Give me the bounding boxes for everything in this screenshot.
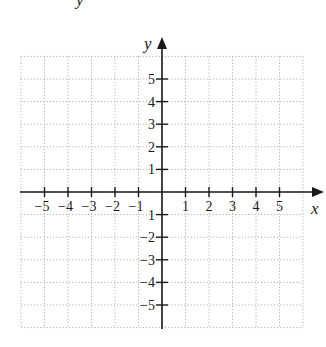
y-tick-label: −3 bbox=[140, 253, 155, 268]
coordinate-plane: y x y −5−4−3−2−112345543211−2−3−4−5 bbox=[0, 0, 326, 347]
y-tick-label: −5 bbox=[140, 298, 155, 313]
x-tick-label: 3 bbox=[229, 199, 236, 214]
y-tick-label: 2 bbox=[148, 140, 155, 155]
y-tick-label: 5 bbox=[148, 72, 155, 87]
x-tick-label: −5 bbox=[35, 199, 50, 214]
x-tick-label: 1 bbox=[182, 199, 189, 214]
x-tick-label: −2 bbox=[105, 199, 120, 214]
y-tick-label: 4 bbox=[148, 95, 155, 110]
x-tick-label: 5 bbox=[276, 199, 283, 214]
partial-header-glyph: y bbox=[74, 0, 84, 9]
x-tick-label: 4 bbox=[253, 199, 260, 214]
x-tick-label: −3 bbox=[82, 199, 97, 214]
x-tick-label: −1 bbox=[129, 199, 144, 214]
axes: x y bbox=[20, 34, 324, 329]
x-tick-label: −4 bbox=[58, 199, 73, 214]
y-tick-label: −2 bbox=[140, 230, 155, 245]
y-tick-label: −4 bbox=[140, 275, 155, 290]
y-axis-label: y bbox=[142, 34, 152, 53]
x-axis-arrow-icon bbox=[312, 187, 324, 197]
x-tick-label: 2 bbox=[206, 199, 213, 214]
y-axis-arrow-icon bbox=[157, 37, 167, 49]
y-tick-label: 1 bbox=[148, 208, 155, 223]
x-axis-label: x bbox=[310, 199, 319, 218]
y-tick-label: 3 bbox=[148, 117, 155, 132]
y-tick-label: 1 bbox=[148, 162, 155, 177]
